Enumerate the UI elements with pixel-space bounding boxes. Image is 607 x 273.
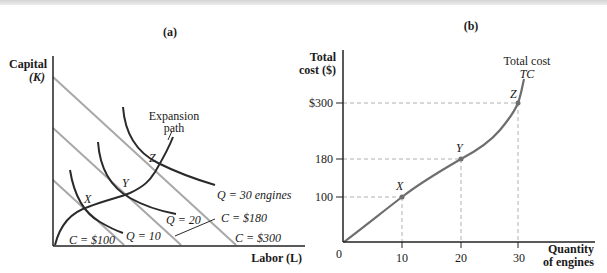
xtick-label-30: 30: [513, 251, 525, 265]
isoquant-label-q30: Q = 30 engines: [217, 188, 292, 202]
isocost-300: [53, 77, 236, 245]
expansion-label-2: path: [164, 121, 185, 135]
xtick-label-0: 0: [336, 247, 342, 261]
tc-label-1: Total cost: [504, 54, 551, 68]
point-label-y-a: Y: [122, 176, 130, 190]
point-label-x-b: X: [395, 179, 404, 193]
point-label-y-b: Y: [456, 141, 464, 155]
panel-a-xlabel: Labor (L): [251, 251, 302, 265]
xtick-label-10: 10: [396, 251, 408, 265]
point-label-z-b: Z: [510, 87, 517, 101]
panel-b-ylabel-1: Total: [310, 50, 337, 64]
panel-b: (b) $300 180 100 0 10 20: [299, 19, 595, 269]
panel-a-ylabel-1: Capital: [9, 57, 48, 71]
isoquant-label-q20: Q = 20: [166, 213, 201, 227]
point-label-z-a: Z: [149, 151, 156, 165]
panel-b-xlabel-2: of engines: [543, 255, 594, 269]
panel-b-xlabel-1: Quantity: [548, 242, 594, 256]
panel-a-title: (a): [163, 25, 177, 39]
isocost-lines: [53, 77, 236, 245]
isocost-label-300: C = $300: [235, 231, 281, 245]
isocost-label-180: C = $180: [221, 211, 267, 225]
point-y-b: [459, 157, 464, 162]
panel-b-ylabel-2: cost ($): [299, 63, 336, 77]
ytick-label-300: $300: [309, 96, 333, 110]
xtick-label-20: 20: [455, 251, 467, 265]
isoquant-label-q10: Q = 10: [126, 229, 161, 243]
tc-label-2: TC: [520, 67, 536, 81]
figure: (a) Capital (K) Labor (L) Expansion path: [0, 0, 607, 273]
point-z-b: [516, 101, 521, 106]
point-x-b: [400, 195, 405, 200]
isocost-label-100: C = $100: [69, 233, 115, 247]
ytick-label-100: 100: [315, 190, 333, 204]
point-label-x-a: X: [83, 192, 92, 206]
panel-b-title: (b): [464, 19, 479, 33]
panel-a-ylabel-2: (K): [29, 70, 45, 84]
isocost-180: [53, 128, 181, 245]
ytick-label-180: 180: [315, 152, 333, 166]
panel-a: (a) Capital (K) Labor (L) Expansion path: [9, 25, 305, 265]
